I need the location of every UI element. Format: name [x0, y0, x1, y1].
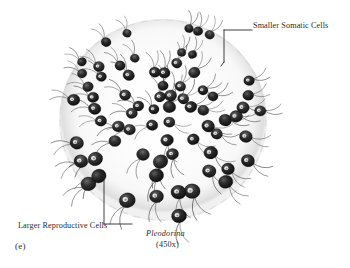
- label-smaller-somatic-cells: Smaller Somatic Cells: [253, 21, 328, 30]
- panel-identifier: (e): [15, 241, 26, 251]
- label-larger-reproductive-cells: Larger Reproductive Cells: [18, 221, 107, 230]
- genus-name-caption: Pleodorina: [146, 229, 185, 238]
- magnification-caption: (450x): [156, 240, 179, 249]
- pleodorina-figure: Smaller Somatic Cells Larger Reproductiv…: [0, 0, 350, 268]
